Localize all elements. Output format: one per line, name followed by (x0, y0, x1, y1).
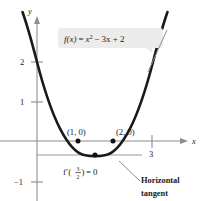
x-tick-label-3: 3 (149, 149, 153, 159)
formula-equals: = (79, 34, 84, 44)
formula-fx: f(x) (64, 34, 77, 44)
point-label-2-0: (2, 0) (116, 127, 135, 137)
annotation-line-1: Horizontal (141, 176, 180, 185)
formula-callout: f(x)=x2− 3x + 2 (58, 28, 167, 72)
derivative-tail: )= 0 (82, 167, 99, 177)
x-axis-label: x (191, 136, 196, 146)
y-tick-label-neg1: −1 (14, 177, 23, 187)
formula-text: f(x)=x2− 3x + 2 (64, 33, 125, 44)
root-point-1 (76, 139, 81, 144)
point-label-1-0: (1, 0) (67, 127, 86, 137)
paren-close: ) (82, 167, 85, 177)
f-prime-symbol: f′ (63, 167, 68, 177)
x-axis (0, 138, 188, 144)
horizontal-tangent-annotation: Horizontal tangent (119, 161, 180, 198)
equals-zero: = 0 (86, 167, 98, 177)
formula-exponent: 2 (90, 33, 93, 40)
y-tick-label-1: 1 (20, 97, 24, 107)
y-axis-label: y (27, 6, 32, 16)
y-tick-label-2: 2 (20, 57, 24, 67)
function-graph-svg: y x 2 1 −1 3 (1, 0) (2, 0) f(x)=x2− 3x +… (0, 0, 203, 201)
paren-open: ( (68, 167, 71, 177)
derivative-text: f′( (63, 167, 71, 177)
formula-rest: − 3x + 2 (94, 34, 124, 44)
root-point-2 (111, 139, 116, 144)
y-axis (34, 16, 40, 201)
figure-container: y x 2 1 −1 3 (1, 0) (2, 0) f(x)=x2− 3x +… (0, 0, 203, 201)
annotation-line-2: tangent (141, 189, 168, 198)
fraction-denominator: 2 (77, 174, 80, 180)
derivative-note: f′( 3 2 )= 0 (63, 166, 98, 180)
vertex-point (93, 153, 98, 158)
fraction-numerator: 3 (77, 166, 80, 172)
